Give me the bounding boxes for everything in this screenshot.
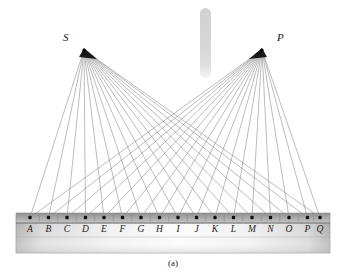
detector-point-l [232, 216, 235, 219]
detector-point-label-c: C [64, 224, 71, 234]
ray-s-p [84, 50, 308, 218]
detector-point-label-b: B [46, 224, 52, 234]
detector-point-h [158, 216, 161, 219]
detector-point-label-l: L [230, 224, 236, 234]
detector-point-label-o: O [286, 224, 293, 234]
detector-point-b [47, 216, 50, 219]
detector-point-o [287, 216, 290, 219]
detector-point-p [306, 216, 309, 219]
detector-point-c [65, 216, 68, 219]
detector-point-label-d: D [81, 224, 89, 234]
detector-point-label-p: P [304, 224, 311, 234]
ray-s-b [49, 50, 85, 218]
detector-point-k [213, 216, 216, 219]
ray-p-c [67, 50, 262, 218]
ray-p-l [234, 50, 263, 218]
source-point-s [82, 48, 85, 51]
ray-fan-group [30, 50, 320, 218]
detector-point-label-e: E [100, 224, 107, 234]
ray-p-a [30, 50, 262, 218]
detector-point-i [176, 216, 179, 219]
detector-point-a [28, 216, 31, 219]
ray-p-i [178, 50, 262, 218]
ray-s-f [84, 50, 123, 218]
detector-point-label-h: H [155, 224, 164, 234]
source-point-p [260, 48, 263, 51]
detector-point-label-a: A [26, 224, 33, 234]
ray-s-o [84, 50, 289, 218]
detector-point-m [250, 216, 253, 219]
source-label-p: P [277, 32, 284, 43]
ray-s-c [67, 50, 84, 218]
slit-rect [200, 8, 211, 78]
optics-diagram-svg: ABCDEFGHIJKLMNOPQ [0, 0, 346, 275]
figure-caption: (a) [0, 258, 346, 268]
ray-s-i [84, 50, 178, 218]
ray-s-l [84, 50, 234, 218]
ray-p-m [252, 50, 262, 218]
detector-point-g [139, 216, 142, 219]
ray-s-d [84, 50, 86, 218]
ray-s-a [30, 50, 84, 218]
detector-point-label-q: Q [317, 224, 324, 234]
detector-point-label-k: K [211, 224, 219, 234]
detector-strip [16, 213, 330, 223]
ray-s-g [84, 50, 141, 218]
detector-point-label-f: F [119, 224, 126, 234]
detector-point-f [121, 216, 124, 219]
detector-point-label-n: N [266, 224, 274, 234]
source-cap-group [79, 48, 267, 59]
source-label-s: S [63, 32, 69, 43]
ray-p-q [262, 50, 320, 218]
ray-s-h [84, 50, 160, 218]
ray-p-b [49, 50, 263, 218]
ray-p-f [123, 50, 263, 218]
detector-point-j [195, 216, 198, 219]
detector-point-q [318, 216, 321, 219]
detector-point-d [84, 216, 87, 219]
detector-point-e [102, 216, 105, 219]
detector-point-label-m: M [247, 224, 257, 234]
slit-bar [200, 8, 211, 78]
detector-point-label-g: G [138, 224, 145, 234]
figure-container: ABCDEFGHIJKLMNOPQ S P (a) [0, 0, 346, 275]
detector-point-n [269, 216, 272, 219]
